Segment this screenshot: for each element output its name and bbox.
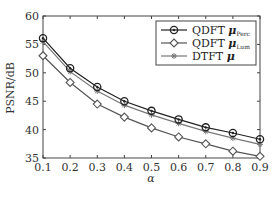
series-line	[43, 56, 260, 157]
series-diamond	[39, 52, 264, 161]
circle-marker-dot	[69, 67, 71, 69]
y-tick-label: 60	[25, 10, 39, 23]
diamond-marker	[229, 147, 237, 155]
x-tick-label: 0.8	[224, 161, 242, 174]
circle-marker-dot	[205, 126, 207, 128]
asterisk-marker	[171, 53, 177, 59]
circle-marker-dot	[173, 29, 175, 31]
diamond-marker	[202, 140, 210, 148]
diamond-marker	[120, 113, 128, 121]
x-tick-label: 0.1	[34, 161, 52, 174]
x-tick-label: 0.9	[251, 161, 269, 174]
circle-marker-dot	[96, 86, 98, 88]
diamond-marker	[148, 124, 156, 132]
circle-marker-dot	[42, 37, 44, 39]
y-tick-label: 55	[25, 38, 39, 51]
circle-marker-dot	[177, 118, 179, 120]
x-axis-title: α	[147, 172, 155, 185]
x-tick-label: 0.2	[61, 161, 79, 174]
legend: QDFT μPercQDFT μLumDTFT μ	[156, 21, 256, 65]
diamond-marker	[175, 133, 183, 141]
x-tick-label: 0.6	[170, 161, 188, 174]
circle-marker-dot	[232, 132, 234, 134]
legend-label: DTFT μ	[192, 50, 235, 63]
x-tick-label: 0.3	[89, 161, 107, 174]
circle-marker-dot	[123, 100, 125, 102]
circle-marker-dot	[150, 110, 152, 112]
psnr-line-chart: 354045505560 0.10.20.30.40.50.60.70.80.9…	[0, 0, 276, 201]
x-tick-label: 0.7	[197, 161, 215, 174]
y-axis-title: PSNR/dB	[4, 62, 17, 114]
y-tick-label: 45	[25, 95, 39, 108]
y-tick-label: 50	[25, 67, 39, 80]
y-tick-label: 40	[25, 124, 39, 137]
x-tick-label: 0.4	[116, 161, 134, 174]
circle-marker-dot	[259, 138, 261, 140]
diamond-marker	[256, 152, 264, 160]
